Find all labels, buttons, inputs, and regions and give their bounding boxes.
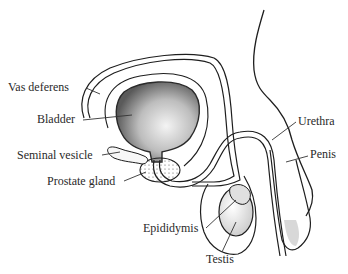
bladder-shape [116,82,199,162]
label-epididymis: Epididymis [143,221,198,235]
leader-urethra [272,122,296,140]
glans-shading [284,220,299,246]
label-urethra: Urethra [298,114,335,128]
label-bladder: Bladder [37,112,75,126]
label-prostate-gland: Prostate gland [47,174,115,188]
label-testis: Testis [206,252,234,266]
leader-penis [286,156,308,162]
label-penis: Penis [310,147,336,161]
urethra-tube [154,137,280,256]
urethra-tube-inner [160,131,287,256]
body-outline [254,10,313,216]
label-seminal-vesicle: Seminal vesicle [17,148,93,162]
anatomy-diagram: Vas deferens Bladder Seminal vesicle Pro… [0,0,348,274]
label-vas-deferens: Vas deferens [8,80,69,94]
